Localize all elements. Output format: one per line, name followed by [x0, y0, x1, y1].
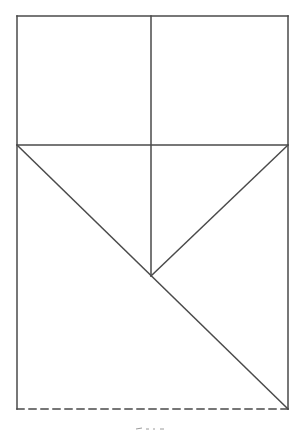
caption-fragment [136, 428, 164, 430]
diagram-canvas [0, 0, 299, 431]
diagonal-short-line [151, 145, 288, 276]
diagram-lines [17, 16, 288, 409]
caption-strokes [136, 428, 164, 430]
